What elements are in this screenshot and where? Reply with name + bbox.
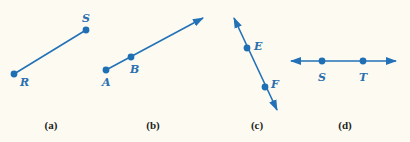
figure-c-line: E F (c) <box>234 18 280 132</box>
caption-c: (c) <box>251 119 264 132</box>
point-b <box>128 54 135 61</box>
figure-b-ray: A B (b) <box>101 18 203 132</box>
caption-d: (d) <box>338 119 352 132</box>
figure-a-segment: R S (a) <box>11 12 90 132</box>
label-s: S <box>318 71 326 84</box>
label-t: T <box>359 71 368 84</box>
point-e <box>244 45 251 52</box>
point-s <box>83 27 90 34</box>
figure-d-line: S T (d) <box>291 58 396 132</box>
label-a: A <box>101 76 111 89</box>
point-a <box>103 67 110 74</box>
geometry-figure: R S (a) A B (b) E F (c) S T (d) <box>0 0 410 142</box>
point-s <box>319 58 326 65</box>
label-e: E <box>253 40 263 53</box>
point-t <box>360 58 367 65</box>
label-r: R <box>19 76 29 89</box>
line-ef <box>234 18 277 110</box>
point-r <box>11 71 18 78</box>
label-s: S <box>82 12 90 25</box>
point-f <box>262 84 269 91</box>
label-b: B <box>129 63 139 76</box>
label-f: F <box>270 78 280 91</box>
caption-a: (a) <box>45 119 58 132</box>
caption-b: (b) <box>146 119 160 132</box>
ray-ab <box>106 18 203 70</box>
segment-rs <box>14 30 86 74</box>
